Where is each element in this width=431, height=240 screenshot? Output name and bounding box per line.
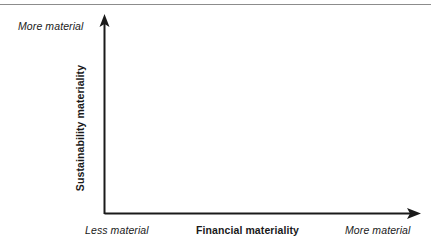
- axes-group: [0, 0, 431, 240]
- y-axis-high-tick-label: More material: [18, 21, 83, 32]
- x-axis-low-tick-label: Less material: [85, 225, 149, 236]
- x-axis-high-tick-label: More material: [345, 225, 410, 236]
- materiality-matrix-figure: More material Sustainability materiality…: [0, 0, 431, 240]
- x-axis-title: Financial materiality: [196, 225, 299, 236]
- y-axis-title: Sustainability materiality: [75, 65, 86, 191]
